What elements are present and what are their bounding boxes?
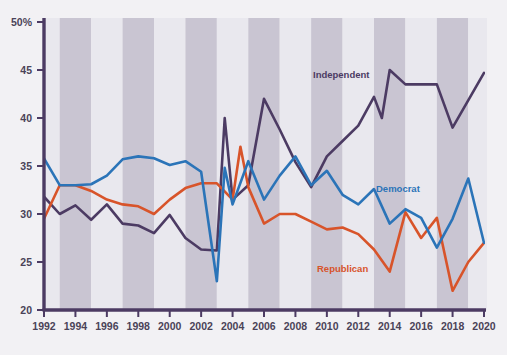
- y-tick-label: 45: [20, 64, 32, 76]
- series-label-democrat: Democrat: [376, 183, 421, 194]
- x-tick-label: 2008: [284, 320, 308, 332]
- stripe-band: [374, 18, 405, 310]
- y-tick-label: 50%: [11, 16, 33, 28]
- x-tick-label: 2012: [347, 320, 371, 332]
- stripe-band: [60, 18, 91, 310]
- x-tick-label: 2000: [158, 320, 182, 332]
- y-tick-label: 20: [20, 304, 32, 316]
- x-tick-label: 2016: [409, 320, 433, 332]
- x-tick-label: 1994: [64, 320, 88, 332]
- series-label-independent: Independent: [313, 69, 370, 80]
- y-tick-label: 25: [20, 256, 32, 268]
- y-tick-label: 40: [20, 112, 32, 124]
- x-tick-label: 2014: [378, 320, 402, 332]
- series-label-republican: Republican: [317, 263, 368, 274]
- x-tick-label: 1996: [95, 320, 119, 332]
- stripe-band: [468, 18, 487, 310]
- x-tick-label: 2018: [441, 320, 465, 332]
- stripe-band: [123, 18, 154, 310]
- x-tick-label: 2020: [472, 320, 496, 332]
- x-tick-label: 1998: [127, 320, 151, 332]
- party-identification-line-chart: 50%454035302520 199219941996199820002002…: [0, 0, 507, 355]
- x-tick-label: 1992: [32, 320, 56, 332]
- y-tick-label: 35: [20, 160, 32, 172]
- stripe-band: [437, 18, 468, 310]
- x-tick-label: 2006: [252, 320, 276, 332]
- x-tick-label: 2004: [221, 320, 245, 332]
- background-stripes: [44, 18, 487, 310]
- x-tick-label: 2002: [189, 320, 213, 332]
- x-tick-label: 2010: [315, 320, 339, 332]
- chart-container: 50%454035302520 199219941996199820002002…: [0, 0, 507, 355]
- stripe-band: [405, 18, 436, 310]
- y-tick-label: 30: [20, 208, 32, 220]
- x-axis-tick-labels: 1992199419961998200020022004200620082010…: [32, 320, 496, 332]
